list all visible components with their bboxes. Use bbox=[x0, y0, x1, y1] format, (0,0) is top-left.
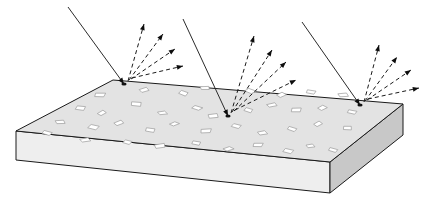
scattered-ray bbox=[131, 49, 175, 79]
surface-pit bbox=[200, 86, 209, 89]
ray-arrowhead bbox=[267, 50, 272, 57]
surface-pit bbox=[201, 129, 211, 133]
scattered-ray bbox=[128, 24, 144, 81]
ray-arrowhead bbox=[169, 49, 175, 54]
event-left bbox=[68, 7, 183, 86]
surface-pit bbox=[55, 120, 65, 123]
slab-group bbox=[16, 80, 403, 193]
scattering-point bbox=[121, 82, 126, 85]
incident-ray bbox=[68, 7, 124, 84]
scattering-diagram bbox=[0, 0, 433, 205]
event-right bbox=[302, 22, 419, 107]
surface-pit bbox=[95, 93, 106, 97]
surface-pit bbox=[75, 106, 85, 111]
surface-pit bbox=[338, 93, 349, 97]
ray-arrowhead bbox=[375, 45, 380, 52]
surface-pit bbox=[343, 126, 351, 130]
scattering-figure bbox=[0, 0, 433, 205]
surface-pit bbox=[208, 114, 218, 119]
ray-arrowhead bbox=[250, 36, 255, 43]
scattered-ray bbox=[129, 34, 163, 80]
scattered-ray bbox=[132, 66, 183, 78]
ray-arrowhead bbox=[140, 24, 145, 31]
scattered-ray bbox=[364, 45, 379, 102]
surface-pit bbox=[291, 108, 301, 112]
scattered-ray bbox=[367, 70, 411, 100]
surface-pit bbox=[253, 143, 263, 146]
ray-arrowhead bbox=[405, 70, 411, 75]
ray-arrowhead bbox=[157, 34, 163, 40]
ray-arrowhead bbox=[412, 87, 419, 92]
surface-pit bbox=[306, 90, 316, 94]
scattering-point bbox=[225, 114, 230, 117]
ray-arrowhead bbox=[391, 57, 397, 63]
scattering-point bbox=[357, 103, 362, 106]
ray-arrowhead bbox=[289, 80, 296, 85]
surface-pit bbox=[131, 102, 141, 107]
